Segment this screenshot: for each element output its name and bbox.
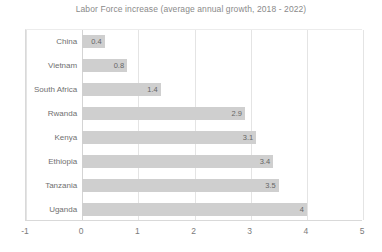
x-tick-label: 4: [303, 226, 308, 236]
x-tick-label: 1: [135, 226, 140, 236]
category-label: Kenya: [54, 131, 81, 144]
category-label: Vietnam: [48, 59, 81, 72]
bar-value-label: 0.8: [82, 59, 127, 72]
bar-value-label: 3.5: [82, 179, 279, 192]
plot-area: China0.4Vietnam0.8South Africa1.4Rwanda2…: [25, 29, 362, 221]
bar-value-label: 4: [82, 203, 307, 216]
x-axis-tick-labels: -1012345: [25, 226, 362, 242]
category-label: South Africa: [34, 83, 81, 96]
bar-value-label: 0.4: [82, 35, 104, 48]
category-label: Tanzania: [45, 179, 81, 192]
bar-value-label: 1.4: [82, 83, 161, 96]
x-tick-label: 3: [247, 226, 252, 236]
bar-chart: Labor Force increase (average annual gro…: [0, 0, 382, 252]
category-label: Uganda: [49, 203, 81, 216]
x-tick-label: 2: [191, 226, 196, 236]
bar-value-label: 3.4: [82, 155, 273, 168]
x-tick-label: 5: [360, 226, 365, 236]
bar-value-label: 2.9: [82, 107, 245, 120]
x-tick-label: -1: [21, 226, 29, 236]
bar-row: Vietnam0.8: [26, 54, 362, 78]
bar-rows: China0.4Vietnam0.8South Africa1.4Rwanda2…: [26, 30, 362, 220]
category-label: China: [56, 35, 81, 48]
bar-row: China0.4: [26, 30, 362, 54]
bar-row: Rwanda2.9: [26, 102, 362, 126]
gridline-5: [363, 30, 364, 220]
bar-row: Uganda4: [26, 198, 362, 222]
x-tick-label: 0: [79, 226, 84, 236]
bar-row: Tanzania3.5: [26, 174, 362, 198]
bar-row: South Africa1.4: [26, 78, 362, 102]
category-label: Ethiopia: [48, 155, 81, 168]
category-label: Rwanda: [48, 107, 81, 120]
bar-row: Ethiopia3.4: [26, 150, 362, 174]
bar-row: Kenya3.1: [26, 126, 362, 150]
bar-value-label: 3.1: [82, 131, 256, 144]
chart-title: Labor Force increase (average annual gro…: [0, 4, 382, 14]
